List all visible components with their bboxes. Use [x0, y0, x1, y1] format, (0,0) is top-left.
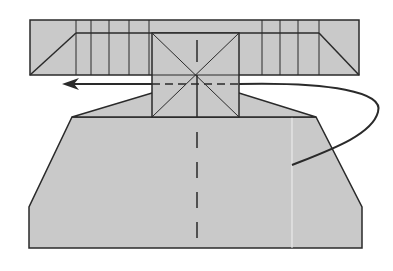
origami-diagram — [0, 0, 393, 271]
fold-arrow-left — [62, 78, 152, 90]
center-square — [152, 33, 239, 117]
bottom-body — [29, 117, 362, 248]
